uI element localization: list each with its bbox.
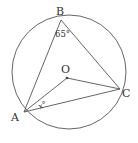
label-c: C xyxy=(122,87,130,100)
diagram-canvas: B O C A 65° x° xyxy=(0,0,138,143)
label-o: O xyxy=(61,63,70,76)
angle-b-label: 65° xyxy=(55,29,70,39)
geometry-diagram: B O C A 65° x° xyxy=(0,0,138,143)
label-b: B xyxy=(56,5,64,18)
center-dot xyxy=(66,77,69,80)
label-a: A xyxy=(10,111,20,124)
angle-a-label: x° xyxy=(37,99,49,111)
